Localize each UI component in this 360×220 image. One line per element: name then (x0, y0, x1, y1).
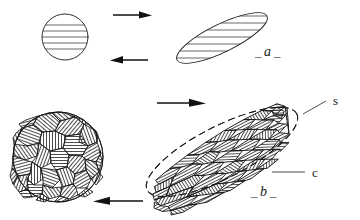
deformed-grain (165, 3, 282, 72)
panel-a-label: _ a _ (254, 44, 281, 59)
panel-b-label-text: b (260, 184, 267, 199)
panel-b-label-suffix: _ (269, 184, 277, 199)
panel-b-label: _ b _ (250, 184, 277, 199)
panel-a-label-prefix: _ (254, 44, 262, 59)
undeformed-grain-hatching (40, 25, 90, 49)
label-s: s (333, 93, 338, 108)
panel-a-label-text: a (264, 44, 271, 59)
figure-root: _ a _ (0, 0, 360, 220)
deformed-aggregate (134, 91, 315, 220)
panel-a-group: _ a _ (40, 3, 282, 72)
leader-s (303, 101, 326, 114)
reverse-arrow-b (93, 197, 143, 205)
panel-b-group: s c _ b _ (10, 91, 338, 220)
diagram-canvas: _ a _ (0, 0, 360, 220)
undeformed-grain (40, 14, 90, 60)
forward-arrow-a (113, 11, 152, 18)
panel-b-label-prefix: _ (250, 184, 258, 199)
forward-arrow-b (157, 99, 206, 107)
reverse-arrow-a (110, 56, 148, 64)
undeformed-aggregate (10, 112, 103, 202)
deformed-aggregate-grains (137, 100, 309, 220)
label-c: c (312, 165, 318, 180)
panel-a-label-suffix: _ (273, 44, 281, 59)
